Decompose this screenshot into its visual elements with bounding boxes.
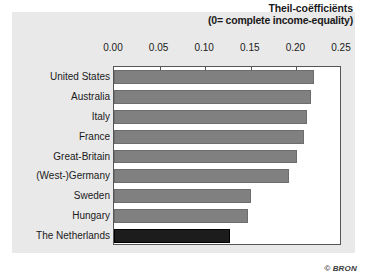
bar [114, 70, 314, 84]
bar [114, 90, 311, 104]
y-category-label: The Netherlands [36, 230, 110, 241]
credit-label: © BRON [324, 264, 357, 273]
y-category-label: Hungary [72, 210, 110, 221]
y-category-label: Italy [92, 110, 110, 121]
y-category-label: Australia [71, 90, 110, 101]
plot-area [113, 66, 341, 245]
bar [114, 150, 297, 164]
y-category-label: Great-Britain [53, 150, 110, 161]
bar [114, 189, 251, 203]
x-tick-label: 0.00 [103, 42, 122, 53]
y-category-label: France [79, 130, 110, 141]
y-category-label: Sweden [74, 190, 110, 201]
x-tick-label: 0.10 [194, 42, 213, 53]
chart-title: Theil-coëfficiënts [208, 2, 353, 14]
y-category-label: (West-)Germany [36, 170, 110, 181]
chart-subtitle: (0= complete income-equality) [208, 14, 353, 26]
x-tick-label: 0.20 [286, 42, 305, 53]
x-axis-tick-labels: 0.000.050.100.150.200.25 [0, 42, 367, 56]
bar [114, 209, 248, 223]
x-tick-label: 0.05 [149, 42, 168, 53]
bar [114, 229, 230, 243]
bar [114, 110, 307, 124]
x-tick-label: 0.25 [331, 42, 350, 53]
chart-figure: Theil-coëfficiënts (0= complete income-e… [0, 0, 367, 279]
y-category-label: United States [50, 70, 110, 81]
bar [114, 130, 304, 144]
y-axis-category-labels: United StatesAustraliaItalyFranceGreat-B… [14, 66, 110, 246]
x-tick-label: 0.15 [240, 42, 259, 53]
bar [114, 169, 289, 183]
chart-title-block: Theil-coëfficiënts (0= complete income-e… [208, 2, 353, 26]
